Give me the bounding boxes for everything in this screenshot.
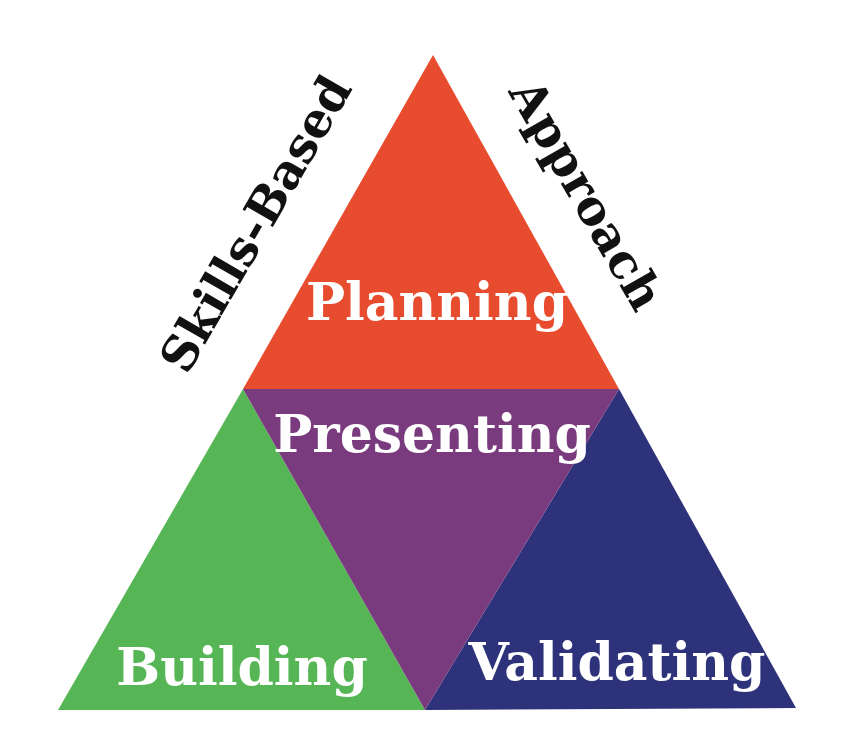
skills-based-approach-triangle-diagram: Planning Presenting Building Validating … (0, 0, 842, 750)
planning-label: Planning (306, 271, 568, 332)
building-label: Building (116, 636, 368, 697)
presenting-label: Presenting (273, 403, 591, 464)
validating-label: Validating (468, 631, 766, 692)
